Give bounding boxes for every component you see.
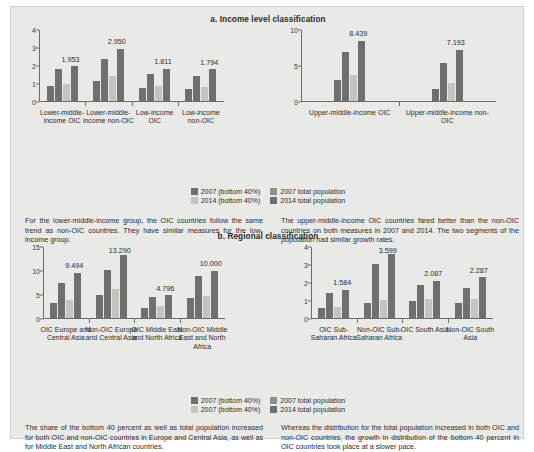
bar xyxy=(55,69,62,101)
category-separator-tick xyxy=(85,102,86,106)
bar xyxy=(185,89,192,101)
y-axis-tick-mark xyxy=(36,30,39,31)
panel-a-legend: 2007 (bottom 40%)2007 total population20… xyxy=(11,188,525,204)
bar-value-label: 8.439 xyxy=(349,30,367,37)
bar-value-label: 9.494 xyxy=(65,262,83,269)
y-axis-tick-mark xyxy=(308,301,311,302)
legend-swatch-icon xyxy=(191,188,198,195)
legend-row: 2007 (bottom 40%)2014 total population xyxy=(191,406,346,413)
bar xyxy=(209,69,216,101)
bar xyxy=(141,308,148,318)
bar xyxy=(58,283,65,318)
x-axis-category-label: Low-income non-OIC xyxy=(175,109,227,126)
x-axis-category-label: Upper-middle-income non-OIC xyxy=(400,109,495,126)
bar xyxy=(71,66,78,101)
bar xyxy=(334,307,341,318)
legend-item: 2014 (bottom 40%) xyxy=(191,197,261,204)
panel-a: a. Income level classification 012341.95… xyxy=(11,15,525,220)
y-axis-tick-mark xyxy=(36,66,39,67)
bar xyxy=(372,264,379,318)
x-axis-category-label: Non-OIC South Asia xyxy=(446,326,494,343)
legend-swatch-icon xyxy=(270,197,277,204)
bar xyxy=(479,277,486,318)
bar xyxy=(163,69,170,101)
bar xyxy=(193,76,200,101)
category-separator-tick xyxy=(89,319,90,323)
figure-container: a. Income level classification 012341.95… xyxy=(10,6,524,439)
y-axis-tick-mark xyxy=(40,271,43,272)
bar xyxy=(155,86,162,101)
y-axis xyxy=(43,247,44,319)
legend-item: 2007 (bottom 40%) xyxy=(191,188,261,195)
bar xyxy=(318,308,325,318)
y-axis-tick-mark xyxy=(308,265,311,266)
bar xyxy=(455,303,462,318)
x-axis-category-label: Lower-middle-income non-OIC xyxy=(82,109,134,126)
bar xyxy=(195,276,202,318)
bar xyxy=(463,288,470,318)
y-axis-tick-mark xyxy=(36,48,39,49)
panel-a-title: a. Income level classification xyxy=(11,15,525,24)
legend-label: 2007 (bottom 40%) xyxy=(201,397,261,404)
panel-b-charts: 0510159.494OIC Europe and Central Asia13… xyxy=(11,247,525,367)
x-axis-category-label: Lower-middle-income OIC xyxy=(36,109,88,126)
legend-swatch-icon xyxy=(191,406,198,413)
panel-b-caption-left: The share of the bottom 40 percent as we… xyxy=(25,423,263,452)
bar xyxy=(74,273,81,318)
y-axis-tick-mark xyxy=(298,66,301,67)
bar xyxy=(139,88,146,101)
bar xyxy=(66,300,73,318)
bar-group xyxy=(187,246,218,318)
bar xyxy=(358,41,365,101)
y-axis-tick-mark xyxy=(40,295,43,296)
bar xyxy=(50,303,57,318)
bar xyxy=(101,59,108,101)
category-separator-tick xyxy=(178,102,179,106)
bar xyxy=(96,295,103,318)
y-axis-tick-mark xyxy=(36,84,39,85)
bar xyxy=(63,84,70,101)
legend-label: 2014 total population xyxy=(280,406,345,413)
legend-swatch-icon xyxy=(270,406,277,413)
y-axis xyxy=(39,30,40,102)
plot-area: 012341.584OIC Sub-Saharan Africa3.599Non… xyxy=(311,247,493,319)
bar-value-label: 1.953 xyxy=(62,56,80,63)
bar-group xyxy=(141,246,172,318)
chart-b-left: 0510159.494OIC Europe and Central Asia13… xyxy=(43,247,225,319)
bar xyxy=(165,295,172,318)
panel-a-charts: 012341.953Lower-middle-income OIC2.950Lo… xyxy=(11,30,525,150)
y-axis-tick-mark xyxy=(308,247,311,248)
bar-value-label: 3.599 xyxy=(379,247,397,254)
bar-value-label: 2.287 xyxy=(470,267,488,274)
bar xyxy=(432,89,439,101)
category-separator-tick xyxy=(448,319,449,323)
bar xyxy=(203,296,210,318)
x-axis-category-label: Low-income OIC xyxy=(129,109,181,126)
y-axis-tick-mark xyxy=(308,283,311,284)
bar xyxy=(409,301,416,318)
x-axis-category-label: OIC South Asia xyxy=(401,326,449,334)
legend-swatch-icon xyxy=(270,397,277,404)
panel-b-title: b. Regional classification xyxy=(11,232,525,241)
panel-b: b. Regional classification 0510159.494OI… xyxy=(11,232,525,437)
category-separator-tick xyxy=(132,102,133,106)
bar xyxy=(380,300,387,318)
bar-value-label: 4.796 xyxy=(156,285,174,292)
bar xyxy=(187,298,194,318)
plot-area: 012341.953Lower-middle-income OIC2.950Lo… xyxy=(39,30,224,102)
bar-value-label: 10.000 xyxy=(200,260,222,267)
chart-b-right: 012341.584OIC Sub-Saharan Africa3.599Non… xyxy=(311,247,493,319)
category-separator-tick xyxy=(399,102,400,106)
bar-group xyxy=(364,246,395,318)
bar xyxy=(157,306,164,318)
legend-label: 2007 total population xyxy=(280,397,345,404)
bar xyxy=(417,285,424,318)
bar-value-label: 13.290 xyxy=(109,247,131,254)
bar xyxy=(364,303,371,318)
x-axis-category-label: OIC Sub-Saharan Africa xyxy=(310,326,358,343)
legend-item: 2014 total population xyxy=(270,406,345,413)
bar-group xyxy=(409,246,440,318)
bar-value-label: 1.584 xyxy=(333,279,351,286)
bar xyxy=(456,50,463,101)
category-separator-tick xyxy=(357,319,358,323)
